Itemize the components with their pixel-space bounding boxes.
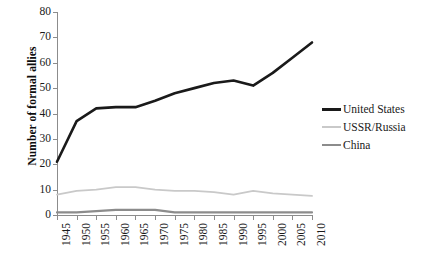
x-axis-tick-label: 1975 (179, 223, 191, 246)
chart-legend: United StatesUSSR/RussiaChina (322, 100, 422, 154)
series-line (57, 210, 312, 213)
x-axis-tick-label: 2000 (277, 223, 289, 246)
y-axis-tick-label: 80 (40, 6, 52, 18)
y-axis-tick-label: 60 (40, 57, 52, 69)
x-axis-tick (175, 215, 176, 220)
y-axis-tick-label: 10 (40, 184, 52, 196)
series-lines (57, 12, 312, 215)
legend-color-swatch (322, 126, 341, 128)
x-axis-tick (312, 215, 313, 220)
x-axis-tick-label: 1990 (238, 223, 250, 246)
x-axis-tick-label: 1950 (81, 223, 93, 246)
x-axis-tick (194, 215, 195, 220)
y-axis-tick-label: 30 (40, 133, 52, 145)
x-axis-tick-label: 1955 (100, 223, 112, 246)
plot-area: 01020304050607080 1945195019551960196519… (57, 12, 312, 215)
allies-line-chart: Number of formal allies 0102030405060708… (0, 0, 423, 262)
y-axis-tick-label: 50 (40, 82, 52, 94)
legend-color-swatch (322, 108, 341, 111)
x-axis-tick-label: 1995 (257, 223, 269, 246)
legend-item[interactable]: USSR/Russia (322, 118, 422, 136)
x-axis-tick (273, 215, 274, 220)
x-axis-tick-label: 1965 (139, 223, 151, 246)
x-axis-tick-label: 1985 (218, 223, 230, 246)
y-axis-title: Number of formal allies (26, 11, 38, 201)
legend-item[interactable]: United States (322, 100, 422, 118)
x-axis-tick (116, 215, 117, 220)
x-axis-tick (96, 215, 97, 220)
x-axis-tick-label: 2005 (296, 223, 308, 246)
y-axis-tick-label: 40 (40, 108, 52, 120)
x-axis-tick (292, 215, 293, 220)
series-line (57, 42, 312, 161)
legend-item-label: United States (343, 103, 405, 115)
x-axis-tick (234, 215, 235, 220)
x-axis-tick (253, 215, 254, 220)
y-axis-tick-label: 20 (40, 159, 52, 171)
x-axis-tick (57, 215, 58, 220)
legend-item[interactable]: China (322, 136, 422, 154)
x-axis-tick-label: 1980 (198, 223, 210, 246)
x-axis-tick (135, 215, 136, 220)
series-line (57, 187, 312, 196)
x-axis-tick (214, 215, 215, 220)
legend-item-label: USSR/Russia (343, 121, 406, 133)
x-axis-tick-label: 1960 (120, 223, 132, 246)
x-axis-tick (77, 215, 78, 220)
x-axis-tick (155, 215, 156, 220)
x-axis-tick-label: 1945 (61, 223, 73, 246)
legend-item-label: China (343, 139, 370, 151)
legend-color-swatch (322, 144, 341, 146)
y-axis-tick-label: 0 (45, 209, 51, 221)
x-axis-tick-label: 1970 (159, 223, 171, 246)
y-axis-tick-label: 70 (40, 32, 52, 44)
x-axis-tick-label: 2010 (316, 223, 328, 246)
